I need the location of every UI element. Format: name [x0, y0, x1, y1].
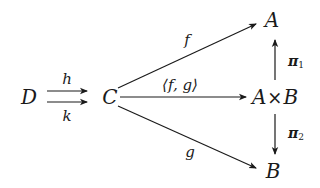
label-pi1: π1 [288, 54, 304, 70]
times-symbol: × [266, 87, 283, 108]
pi1-symbol: π [288, 53, 298, 69]
product-diagram: D C A A×B B h k f ⟨f, g⟩ g π1 π2 [0, 0, 320, 188]
pi2-symbol: π [288, 125, 298, 141]
pi1-subscript: 1 [298, 60, 304, 70]
label-k: k [62, 109, 71, 124]
product-left: A [252, 85, 266, 109]
node-C: C [102, 87, 117, 107]
label-pi2: π2 [288, 126, 304, 142]
node-B: B [266, 161, 281, 181]
pi2-subscript: 2 [298, 132, 304, 142]
label-pair-fg: ⟨f, g⟩ [162, 78, 198, 93]
node-D: D [21, 87, 37, 107]
product-right: B [283, 85, 298, 109]
label-f: f [184, 33, 190, 48]
node-A: A [265, 10, 279, 30]
label-g: g [185, 145, 195, 160]
node-product-AxB: A×B [252, 87, 298, 107]
label-h: h [62, 72, 72, 87]
